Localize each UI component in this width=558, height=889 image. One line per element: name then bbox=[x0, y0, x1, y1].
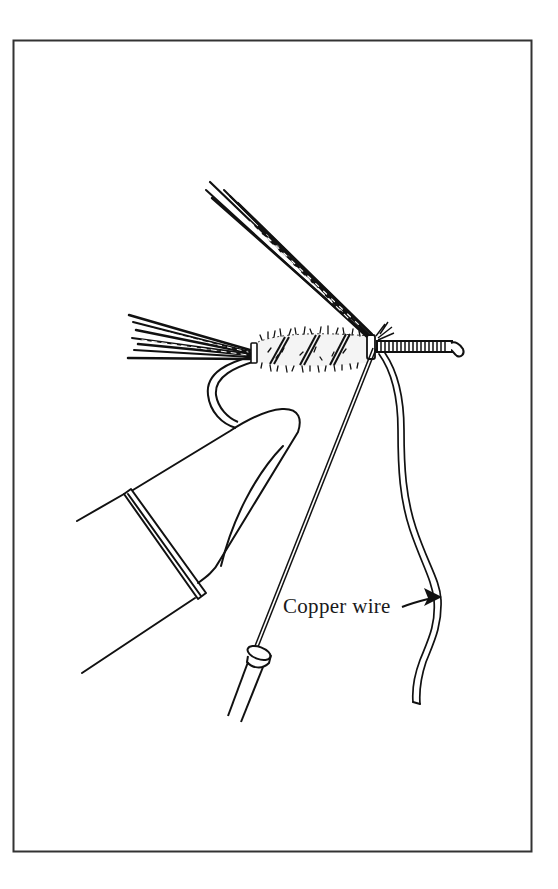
fly-tying-diagram bbox=[0, 0, 558, 889]
hook-eye bbox=[451, 342, 464, 356]
tail-fibers bbox=[128, 315, 250, 359]
dubbed-body bbox=[258, 326, 372, 372]
vise-jaw bbox=[77, 409, 300, 673]
illustration: Copper wire bbox=[0, 0, 558, 889]
arrow-icon bbox=[402, 588, 442, 607]
wing bbox=[206, 182, 372, 338]
figure-frame bbox=[14, 41, 532, 852]
tail-tie-in bbox=[251, 343, 257, 363]
bobbin-holder bbox=[228, 643, 272, 722]
hook-bend bbox=[208, 356, 256, 428]
hook-shank bbox=[377, 341, 452, 352]
copper-wire bbox=[379, 353, 441, 704]
copper-wire-label: Copper wire bbox=[283, 594, 391, 619]
